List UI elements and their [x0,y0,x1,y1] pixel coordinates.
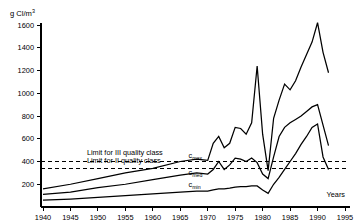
x-tick-label: 1965 [172,213,188,221]
y-tick-label: 600 [22,134,34,143]
x-tick-label: 1985 [282,213,298,221]
limit-ii-quality-class-label: Limit for II quality class [87,156,161,165]
series-line-c_max [43,23,329,189]
chart-container: 2004006008001000120014001600 19401945195… [0,0,361,221]
x-tick-label: 1980 [254,213,270,221]
y-tick-label: 1600 [18,21,34,30]
y-tick-label: 400 [22,157,34,166]
axes-group [41,23,350,207]
annotation-labels-group: Limit for III quality classLimit for II … [87,148,203,189]
x-tick-label: 1995 [337,213,353,221]
x-tick-label: 1940 [35,213,51,221]
x-tick-label: 1960 [145,213,161,221]
y-tick-label: 1000 [18,89,34,98]
series-line-c_min [43,124,329,200]
x-axis-title: Years [327,190,346,199]
y-tick-label: 800 [22,112,34,121]
x-axis-ticks-group: 1940194519501955196019651970197519801985… [35,207,353,221]
y-tick-label: 1400 [18,43,34,52]
x-tick-label: 1955 [117,213,133,221]
series-label-c_max: cmax [189,151,203,161]
x-tick-label: 1950 [90,213,106,221]
series-label-c_med: cmed [189,168,203,178]
series-label-c_min: cmin [189,180,201,190]
x-tick-label: 1990 [309,213,325,221]
x-tick-label: 1945 [62,213,78,221]
y-tick-label: 200 [22,180,34,189]
y-axis-ticks-group: 2004006008001000120014001600 [18,21,41,189]
y-axis-title: g Cl/m3 [10,8,35,18]
x-tick-label: 1970 [200,213,216,221]
x-tick-label: 1975 [227,213,243,221]
chloride-concentration-line-chart: 2004006008001000120014001600 19401945195… [0,0,361,221]
y-tick-label: 1200 [18,66,34,75]
series-lines-group [43,23,329,200]
